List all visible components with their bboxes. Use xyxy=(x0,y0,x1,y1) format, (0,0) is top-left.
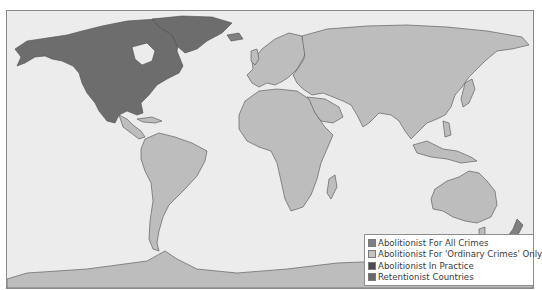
region-philippines xyxy=(443,121,451,137)
legend-swatch xyxy=(368,250,376,258)
legend-item-abolitionist-ordinary: Abolitionist For 'Ordinary Crimes' Only xyxy=(368,249,530,261)
legend-label: Retentionist Countries xyxy=(378,272,474,282)
region-north-america xyxy=(15,19,192,123)
region-caribbean xyxy=(137,117,162,123)
legend-swatch xyxy=(368,239,376,247)
legend-swatch xyxy=(368,262,376,270)
legend-item-abolitionist-practice: Abolitionist In Practice xyxy=(368,260,530,272)
region-madagascar xyxy=(327,175,337,199)
map-legend: Abolitionist For All Crimes Abolitionist… xyxy=(364,234,534,286)
legend-item-retentionist: Retentionist Countries xyxy=(368,272,530,284)
legend-label: Abolitionist For 'Ordinary Crimes' Only xyxy=(378,249,542,259)
legend-swatch xyxy=(368,273,376,281)
region-indonesia xyxy=(413,141,477,163)
legend-item-abolitionist-all: Abolitionist For All Crimes xyxy=(368,237,530,249)
region-south-america xyxy=(141,133,207,251)
region-australia xyxy=(431,171,497,223)
legend-label: Abolitionist In Practice xyxy=(378,261,474,271)
region-iceland xyxy=(227,33,243,41)
legend-label: Abolitionist For All Crimes xyxy=(378,238,488,248)
